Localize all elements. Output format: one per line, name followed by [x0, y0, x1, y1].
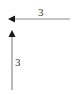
horizontal-arrow: 3	[8, 6, 70, 23]
vertical-arrow: 3	[9, 30, 22, 90]
arrow-diagram: 3 3	[0, 0, 74, 95]
left-arrowhead-icon	[8, 16, 15, 23]
up-arrowhead-icon	[9, 30, 16, 37]
vertical-arrow-label: 3	[15, 56, 21, 68]
horizontal-arrow-label: 3	[38, 6, 44, 18]
